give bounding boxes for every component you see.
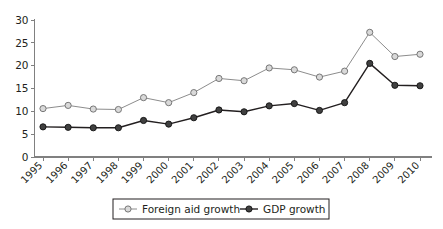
data-point [316, 74, 322, 80]
data-point [392, 82, 398, 88]
y-tick-label: 0 [22, 151, 29, 163]
y-axis: 051015202530 [15, 14, 34, 163]
x-axis: 1995199619971998199920002001200220032004… [19, 157, 432, 185]
x-tick-label: 2005 [270, 160, 296, 186]
data-point [191, 90, 197, 96]
data-point [367, 29, 373, 35]
data-point [216, 75, 222, 81]
series-layer [40, 29, 423, 131]
data-point [367, 60, 373, 66]
data-point [166, 121, 172, 127]
y-tick-label: 25 [15, 37, 28, 49]
data-point [291, 100, 297, 106]
data-point [241, 109, 247, 115]
chart-legend: Foreign aid growthGDP growth [113, 199, 329, 219]
x-tick-label: 2002 [195, 160, 221, 186]
x-tick-label: 1997 [69, 160, 95, 186]
data-point [342, 68, 348, 74]
data-point [65, 124, 71, 130]
data-point [65, 102, 71, 108]
data-point [316, 107, 322, 113]
x-tick-label: 1996 [44, 160, 70, 186]
x-tick-label: 2009 [371, 160, 397, 186]
y-tick-label: 5 [22, 128, 29, 140]
data-point [90, 125, 96, 131]
line-chart: 051015202530 199519961997199819992000200… [0, 0, 443, 229]
data-point [216, 107, 222, 113]
x-tick-label: 2006 [295, 160, 321, 186]
filled-circle-marker [246, 206, 252, 212]
data-point [40, 105, 46, 111]
data-point [417, 83, 423, 89]
x-tick-label: 1995 [19, 160, 45, 186]
data-point [115, 106, 121, 112]
chart-canvas: 051015202530 199519961997199819992000200… [0, 0, 443, 229]
x-tick-label: 2000 [144, 160, 170, 186]
x-tick-label: 2001 [169, 160, 195, 186]
x-tick-label: 2008 [345, 160, 371, 186]
data-point [266, 103, 272, 109]
data-point [342, 100, 348, 106]
legend-label: GDP growth [263, 203, 325, 215]
x-tick-label: 2010 [396, 160, 422, 186]
open-circle-marker [125, 206, 131, 212]
data-point [417, 51, 423, 57]
x-tick-label: 1999 [119, 160, 145, 186]
series-gdp-growth [40, 60, 423, 131]
data-point [140, 117, 146, 123]
y-tick-label: 15 [15, 82, 28, 94]
data-point [40, 124, 46, 130]
data-point [241, 78, 247, 84]
legend-label: Foreign aid growth [142, 203, 240, 215]
y-tick-label: 20 [15, 59, 28, 71]
data-point [291, 67, 297, 73]
data-point [140, 95, 146, 101]
y-tick-label: 30 [15, 14, 28, 26]
data-point [90, 106, 96, 112]
data-point [266, 65, 272, 71]
data-point [392, 53, 398, 59]
data-point [191, 115, 197, 121]
data-point [166, 100, 172, 106]
series-line [43, 63, 420, 127]
x-tick-label: 1998 [94, 160, 120, 186]
series-line [43, 32, 420, 109]
x-tick-label: 2007 [320, 160, 346, 186]
x-tick-label: 2004 [245, 160, 271, 186]
y-tick-label: 10 [15, 105, 28, 117]
x-tick-label: 2003 [220, 160, 246, 186]
data-point [115, 125, 121, 131]
